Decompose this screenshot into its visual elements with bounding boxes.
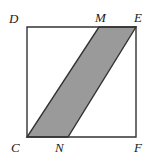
shaded-parallelogram-CNEM: [27, 27, 136, 137]
vertex-label-M: M: [95, 11, 106, 24]
vertex-label-E: E: [134, 11, 142, 24]
vertex-label-D: D: [9, 12, 18, 25]
vertex-label-F: F: [134, 141, 142, 154]
vertex-label-N: N: [55, 141, 64, 154]
geometry-canvas: [0, 0, 151, 163]
vertex-label-C: C: [11, 141, 20, 154]
geometry-figure: D M E C N F: [0, 0, 151, 163]
